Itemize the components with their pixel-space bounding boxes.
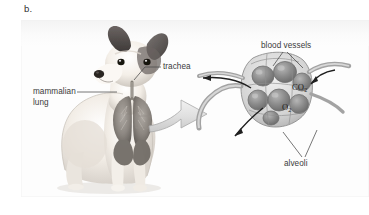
leader-alveoli-left [283, 132, 302, 157]
label-trachea: trachea [163, 62, 191, 72]
label-oxygen: O2 [282, 102, 291, 112]
figure-artwork [21, 20, 369, 197]
dog-head [94, 26, 168, 87]
figure-letter-label: b. [24, 3, 32, 15]
leader-alveoli-right [305, 130, 317, 157]
illustration-panel: mammalian lung trachea blood vessels alv… [21, 20, 369, 197]
label-carbon-dioxide: CO2 [292, 82, 307, 92]
label-blood-vessels: blood vessels [261, 41, 311, 51]
figure-container: b. [0, 0, 369, 215]
dog-illustration [57, 26, 168, 194]
label-alveoli: alveoli [284, 159, 308, 169]
o2-subscript: 2 [288, 107, 291, 113]
co2-subscript: 2 [304, 87, 307, 93]
label-mammalian-lung: mammalian lung [33, 87, 89, 108]
co2-symbol: CO [292, 82, 304, 92]
